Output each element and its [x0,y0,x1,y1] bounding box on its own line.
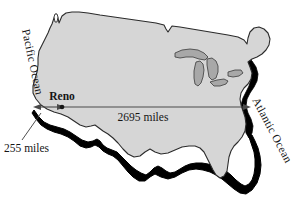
puget-sound-notch [54,14,58,22]
short-distance-label: 255 miles [4,142,50,154]
reno-city-label: Reno [49,90,75,102]
long-distance-label: 2695 miles [118,111,169,123]
us-map-svg: Pacific Ocean Atlantic Ocean Reno 2695 m… [0,0,303,206]
lake-huron [207,58,218,80]
map-figure: Pacific Ocean Atlantic Ocean Reno 2695 m… [0,0,303,206]
reno-city-marker [60,105,65,110]
